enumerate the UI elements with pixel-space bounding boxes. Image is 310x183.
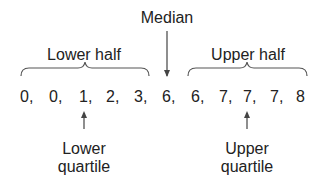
lower-half-label: Lower half — [36, 46, 132, 64]
median-value: 6, — [162, 88, 175, 106]
data-value: 7, — [270, 88, 283, 106]
median-label: Median — [132, 9, 202, 27]
data-value: 8 — [296, 88, 305, 106]
upper-quartile-label-line2: quartile — [212, 158, 282, 176]
median-arrow-icon — [164, 31, 170, 77]
lower-quartile-label-line1: Lower — [49, 140, 119, 158]
upper-quartile-value: 7, — [243, 88, 256, 106]
data-value: 2, — [106, 88, 119, 106]
data-value: 0, — [49, 88, 62, 106]
data-value: 0, — [20, 88, 33, 106]
lower-half-brace — [21, 62, 149, 76]
data-value: 3, — [134, 88, 147, 106]
upper-half-label: Upper half — [200, 46, 296, 64]
upper-quartile-label-line1: Upper — [212, 140, 282, 158]
upper-half-brace — [188, 62, 307, 76]
lower-quartile-arrow-icon — [81, 111, 87, 129]
lower-quartile-value: 1, — [79, 88, 92, 106]
data-value: 7, — [219, 88, 232, 106]
data-value: 6, — [191, 88, 204, 106]
lower-quartile-label-line2: quartile — [49, 158, 119, 176]
upper-quartile-arrow-icon — [244, 111, 250, 129]
